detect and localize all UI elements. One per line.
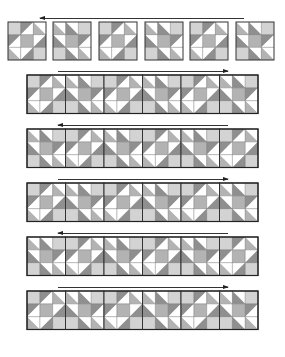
arrow-right-icon: [223, 69, 229, 73]
quilt-block: [145, 22, 183, 60]
quilt-strip: [27, 75, 258, 114]
quilt-strip: [27, 129, 258, 168]
arrow-left-icon: [57, 123, 63, 127]
quilt-strip: [27, 237, 258, 276]
quilt-block: [236, 22, 274, 60]
pressing-direction-arrow: [58, 125, 228, 126]
pressing-direction-arrow: [58, 179, 228, 180]
pressing-direction-arrow: [58, 287, 228, 288]
sewing-direction-arrow: [40, 18, 244, 19]
arrow-right-icon: [223, 285, 229, 289]
quilt-strip: [27, 291, 258, 330]
arrow-left-icon: [57, 231, 63, 235]
pressing-direction-arrow: [58, 71, 228, 72]
quilt-block: [99, 22, 137, 60]
pressing-direction-arrow: [58, 233, 228, 234]
arrow-right-icon: [223, 177, 229, 181]
arrow-left-icon: [39, 16, 45, 20]
quilt-block: [8, 22, 46, 60]
quilt-strip: [27, 183, 258, 222]
quilt-block: [53, 22, 91, 60]
quilt-block: [190, 22, 228, 60]
